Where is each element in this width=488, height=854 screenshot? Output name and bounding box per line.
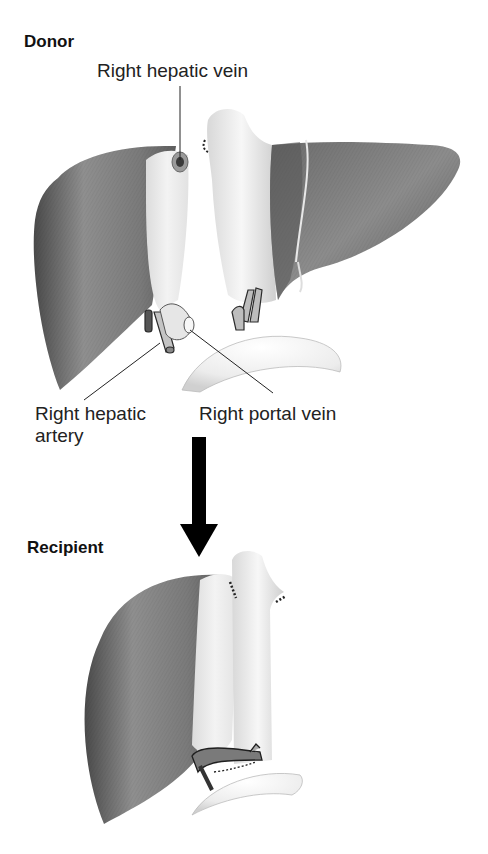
recipient-title: Recipient [27, 538, 104, 558]
label-right-hepatic-artery-line2: artery [35, 425, 84, 447]
donor-right-cut-surface [146, 151, 188, 310]
label-right-hepatic-vein: Right hepatic vein [97, 60, 248, 82]
label-right-portal-vein: Right portal vein [199, 403, 336, 425]
recipient-vena-cava [232, 551, 284, 764]
donor-title: Donor [24, 32, 74, 52]
donor-liver [34, 109, 460, 392]
recipient-liver [85, 551, 303, 824]
label-right-hepatic-artery-line1: Right hepatic [35, 403, 146, 425]
donor-vena-cava [207, 109, 276, 303]
transfer-arrow-icon [180, 437, 218, 557]
recipient-cut-surface [192, 574, 238, 756]
